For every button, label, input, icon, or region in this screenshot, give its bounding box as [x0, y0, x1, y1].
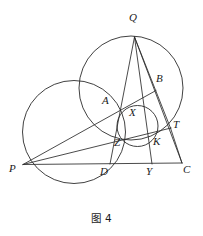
point-label-P: P — [9, 163, 16, 174]
segment-PB — [23, 91, 156, 165]
point-label-C: C — [183, 164, 190, 175]
point-label-D: D — [100, 166, 108, 177]
segment-QY — [135, 37, 153, 164]
circle-inner-small — [117, 106, 158, 147]
point-label-Y: Y — [146, 166, 152, 177]
segment-PT — [23, 128, 171, 165]
point-label-X: X — [129, 107, 136, 118]
geometry-figure: Q B A X T Z K P D Y C 图 4 — [0, 0, 203, 236]
point-label-K: K — [153, 136, 160, 147]
point-label-T: T — [173, 119, 179, 130]
figure-caption: 图 4 — [0, 210, 203, 225]
point-label-Q: Q — [129, 12, 137, 23]
circle-left — [23, 81, 126, 184]
point-label-A: A — [102, 95, 109, 106]
point-label-Z: Z — [114, 137, 120, 148]
point-label-B: B — [156, 73, 163, 84]
segment-TC — [171, 128, 183, 163]
